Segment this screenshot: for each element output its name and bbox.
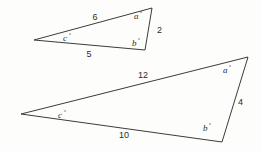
large-triangle-angle-c-letter: c [58, 110, 62, 120]
small-triangle-angle-c-letter: c [63, 33, 67, 43]
small-triangle-angle-b-letter: b [132, 38, 137, 48]
small-triangle-group: 6 5 2 a ° b ° c ° [34, 8, 162, 59]
large-triangle-angle-a-letter: a [223, 65, 228, 75]
large-triangle-angle-a: a ° [223, 64, 231, 75]
large-triangle-side-right-label: 4 [238, 97, 243, 107]
small-triangle-angle-a-letter: a [134, 11, 139, 21]
small-triangle-side-bottom-label: 5 [86, 49, 91, 59]
large-triangle-side-top-label: 12 [138, 70, 148, 80]
diagram-canvas: 6 5 2 a ° b ° c ° 12 [0, 0, 261, 152]
large-triangle-angle-b: b ° [203, 122, 211, 133]
large-triangle-angle-a-degree: ° [229, 64, 231, 70]
small-triangle-angle-b-degree: ° [138, 37, 140, 43]
similar-triangles-figure: 6 5 2 a ° b ° c ° 12 [0, 0, 261, 152]
large-triangle-angle-c-degree: ° [64, 109, 66, 115]
large-triangle-angle-c: c ° [58, 109, 66, 120]
large-triangle-outline [21, 57, 248, 142]
small-triangle-angle-c-degree: ° [69, 32, 71, 38]
small-triangle-side-top-label: 6 [92, 12, 97, 22]
small-triangle-angle-b: b ° [132, 37, 140, 48]
large-triangle-angle-b-letter: b [203, 123, 208, 133]
small-triangle-angle-a: a ° [134, 10, 142, 21]
large-triangle-side-bottom-label: 10 [119, 130, 129, 140]
small-triangle-side-right-label: 2 [157, 25, 162, 35]
large-triangle-angle-b-degree: ° [209, 122, 211, 128]
small-triangle-angle-c: c ° [63, 32, 71, 43]
small-triangle-angle-a-degree: ° [140, 10, 142, 16]
large-triangle-group: 12 10 4 a ° b ° c ° [21, 57, 248, 142]
